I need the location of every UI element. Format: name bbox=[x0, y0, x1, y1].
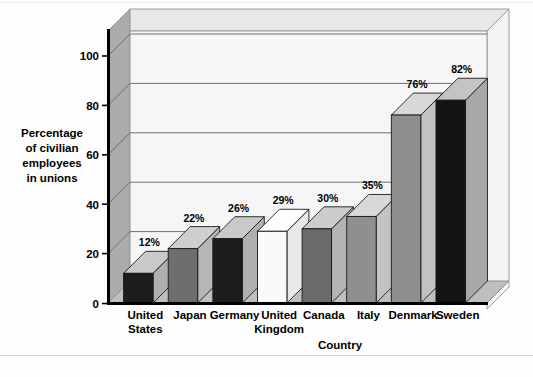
y-tick-label: 0 bbox=[93, 298, 99, 310]
bar-front-face bbox=[391, 115, 420, 303]
bar-front-face bbox=[436, 100, 465, 303]
x-category-label: Canada bbox=[303, 309, 345, 321]
x-category-label: Japan bbox=[173, 309, 206, 321]
x-category-label: United bbox=[261, 309, 297, 321]
bar-italy bbox=[347, 194, 398, 303]
bar-value-label: 76% bbox=[407, 78, 429, 90]
bar-value-label: 29% bbox=[273, 194, 295, 206]
plot-top-face bbox=[108, 9, 509, 31]
y-tick-label: 60 bbox=[86, 149, 99, 161]
bar-value-label: 26% bbox=[228, 202, 250, 214]
bar-side-face bbox=[465, 78, 487, 303]
bar-value-label: 22% bbox=[183, 212, 205, 224]
x-category-label: United bbox=[127, 309, 163, 321]
bar-sweden bbox=[436, 78, 487, 303]
x-category-label: Denmark bbox=[388, 309, 438, 321]
figure-container: 020406080100 12%22%26%29%30%35%76%82% Un… bbox=[0, 0, 533, 377]
x-category-label: Kingdom bbox=[254, 323, 304, 335]
plot-right-outer-face bbox=[487, 9, 509, 309]
bar-front-face bbox=[302, 229, 331, 303]
bar-chart: 020406080100 12%22%26%29%30%35%76%82% Un… bbox=[0, 0, 533, 377]
bar-front-face bbox=[168, 249, 197, 303]
x-axis-title: Country bbox=[318, 339, 363, 351]
bar-value-label: 82% bbox=[451, 63, 473, 75]
bar-front-face bbox=[257, 231, 286, 303]
bar-front-face bbox=[347, 216, 376, 303]
x-category-label: Italy bbox=[357, 309, 381, 321]
y-tick-label: 20 bbox=[86, 248, 99, 260]
y-axis-title-line: Percentage bbox=[21, 127, 83, 139]
y-tick-label: 80 bbox=[86, 100, 99, 112]
y-tick-label: 100 bbox=[80, 50, 99, 62]
x-category-labels: UnitedStatesJapanGermanyUnitedKingdomCan… bbox=[127, 309, 479, 335]
y-axis-title-line: of civilian bbox=[25, 142, 78, 154]
bar-denmark bbox=[391, 93, 442, 303]
bar-united-kingdom bbox=[257, 209, 308, 303]
x-category-label: Germany bbox=[210, 309, 260, 321]
y-tick-label: 40 bbox=[86, 199, 99, 211]
y-axis-title: Percentageof civilianemployeesin unions bbox=[21, 127, 83, 184]
bar-canada bbox=[302, 207, 353, 303]
y-axis-title-line: employees bbox=[22, 157, 81, 169]
bar-front-face bbox=[124, 273, 153, 303]
bar-front-face bbox=[213, 239, 242, 303]
x-category-label: Sweden bbox=[436, 309, 479, 321]
bar-value-label: 35% bbox=[362, 179, 384, 191]
bar-value-label: 12% bbox=[139, 236, 161, 248]
bar-value-label: 30% bbox=[317, 192, 339, 204]
x-category-label: States bbox=[128, 323, 163, 335]
y-axis-title-line: in unions bbox=[26, 172, 77, 184]
y-tick-labels: 020406080100 bbox=[80, 50, 99, 309]
